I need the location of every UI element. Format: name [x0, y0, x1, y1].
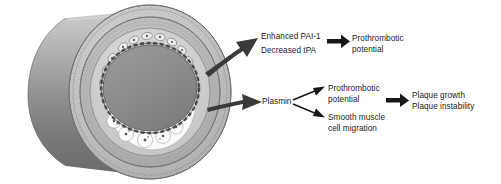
plaque-outcome-line2: Plaque instability: [412, 102, 474, 111]
smooth-muscle-line2: cell migration: [328, 124, 377, 133]
branch-arrow-down: [293, 104, 317, 114]
branch-arrow-up-head: [313, 87, 325, 96]
label-smooth-muscle-cell-migration: Smooth musclecell migration: [328, 112, 385, 134]
prothrombotic-upper-line1: Prothrombotic: [352, 34, 404, 43]
label-enhanced-pai-1: Enhanced PAI-1: [261, 31, 321, 42]
plaque-outcome-line1: Plaque growth: [412, 91, 465, 100]
label-prothrombotic-potential-lower: Prothromboticpotential: [328, 83, 380, 105]
prothrombotic-lower-line2: potential: [328, 95, 359, 104]
figure-canvas: Enhanced PAI-1 Decreased tPA Prothrombot…: [0, 0, 501, 184]
label-decreased-tpa: Decreased tPA: [261, 45, 316, 56]
label-plaque-outcome: Plaque growthPlaque instability: [412, 90, 474, 112]
smooth-muscle-line1: Smooth muscle: [328, 113, 385, 122]
branch-arrow-down-head: [313, 109, 325, 118]
prothrombotic-upper-line2: potential: [352, 45, 383, 54]
label-plasmin: Plasmin: [262, 96, 291, 107]
branch-arrow-up: [293, 90, 317, 100]
lumen: [103, 45, 197, 131]
arrow-to-plaque-outcome: [386, 94, 409, 108]
arrow-to-prothrombotic-upper: [327, 35, 350, 49]
prothrombotic-lower-line1: Prothrombotic: [328, 84, 380, 93]
label-prothrombotic-potential-upper: Prothromboticpotential: [352, 33, 404, 55]
